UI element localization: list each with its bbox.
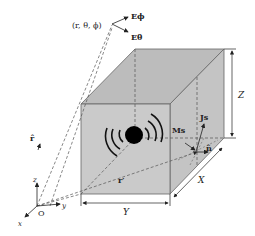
axis-y-label: y xyxy=(61,202,67,210)
source-dot-icon xyxy=(125,126,143,144)
e-phi-label: Eϕ xyxy=(131,11,145,21)
axis-x-label: x xyxy=(18,220,22,228)
r-hat-label: r̂ xyxy=(30,133,35,143)
dim-x-label: X xyxy=(197,175,205,185)
axis-z-label: z xyxy=(32,176,37,184)
dim-y-label: Y xyxy=(123,207,130,217)
dim-z-label: Z xyxy=(237,90,245,100)
r-prime-label: r′ xyxy=(118,175,124,185)
js-label: Js xyxy=(199,112,209,122)
e-theta-label: Eθ xyxy=(131,32,143,42)
observation-point-label: (r, θ, ϕ) xyxy=(72,21,102,30)
diagram-svg: (r, θ, ϕ) Eϕ Eθ r̂ r′ Js Ms n̂ Z Y X z y… xyxy=(0,0,255,236)
ms-label: Ms xyxy=(172,125,186,135)
origin-label: O xyxy=(38,209,45,218)
n-hat-label: n̂ xyxy=(206,143,212,153)
diagram-canvas: (r, θ, ϕ) Eϕ Eθ r̂ r′ Js Ms n̂ Z Y X z y… xyxy=(0,0,255,236)
